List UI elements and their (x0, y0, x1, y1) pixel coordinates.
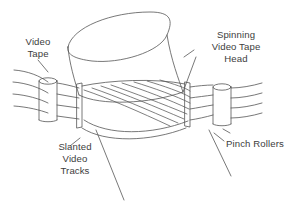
label-spinning-line1: Spinning (198, 29, 274, 41)
tape-right-strands (231, 83, 262, 118)
label-slanted-line2: Video (44, 153, 106, 165)
leader-video-tape (38, 60, 48, 72)
leader-spinning-head-upper (184, 50, 194, 57)
label-video-tape-line1: Video (10, 36, 66, 48)
leader-pinch-long (209, 130, 231, 176)
label-spinning-line3: Head (198, 53, 274, 65)
label-video-tape-line2: Tape (10, 48, 66, 60)
label-slanted-line1: Slanted (44, 141, 106, 153)
head-drum (68, 12, 183, 102)
tape-mid-left-strands (57, 83, 79, 119)
label-spinning-video-tape-head: Spinning Video Tape Head (198, 29, 274, 66)
video-tape-diagram: Video Tape Spinning Video Tape Head Slan… (0, 0, 306, 210)
label-pinch-line1: Pinch Rollers (226, 138, 300, 150)
slanted-video-tracks (84, 80, 190, 126)
tape-left-strands (13, 70, 48, 113)
tape-mid-right-strands (190, 85, 213, 120)
label-slanted-video-tracks: Slanted Video Tracks (44, 141, 106, 178)
leader-pinch-right (223, 129, 230, 133)
right-pinch-roller (213, 84, 231, 126)
leader-pinch-left (214, 133, 224, 141)
label-pinch-rollers: Pinch Rollers (226, 138, 300, 150)
label-video-tape: Video Tape (10, 36, 66, 60)
label-slanted-line3: Tracks (44, 165, 106, 177)
label-spinning-line2: Video Tape (198, 41, 274, 53)
